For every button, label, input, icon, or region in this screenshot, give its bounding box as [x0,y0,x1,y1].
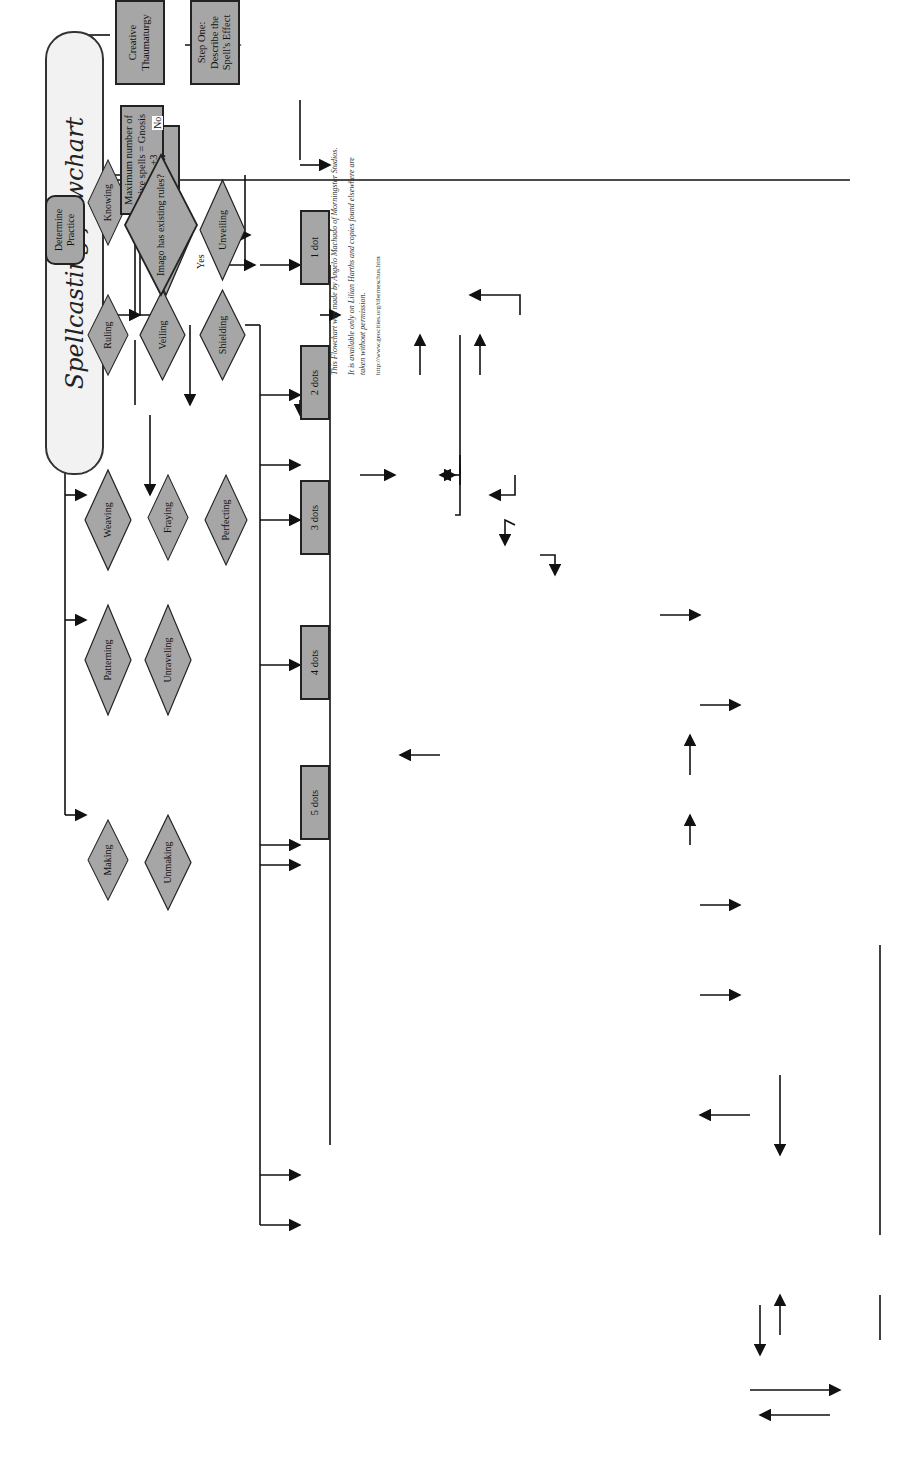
dots-3-node: 3 dots [300,480,330,555]
practice-weaving: Weaving [85,470,131,570]
determine-practice-node: Determine Practice [45,195,85,265]
practice-patterning: Patterning [85,605,131,715]
credit-note: This Flowchart was made by Angelo Machad… [330,145,384,375]
practice-fraying: Fraying [148,475,188,560]
yes-label: Yes [195,253,206,270]
imago-rules-decision: Imago has existing rules? [125,155,197,295]
practice-unveiling: Unveiling [200,180,245,280]
practice-ruling: Ruling [88,295,128,375]
practice-perfecting: Perfecting [205,475,247,565]
practice-making: Making [88,820,128,900]
credit-url: http://www.geocities.org/tiberneschus.ht… [374,145,383,375]
dots-2-node: 2 dots [300,345,330,420]
practice-veiling: Veiling [140,290,185,380]
dots-1-node: 1 dot [300,210,330,285]
credit-line-1: This Flowchart was made by Angelo Machad… [330,145,341,375]
credit-line-2: It is available only on Lilian Harths an… [347,145,369,375]
flowchart-canvas: Spellcasting flowchart This Flowchart wa… [0,0,921,1475]
dots-5-node: 5 dots [300,765,330,840]
no-label: No [152,116,163,130]
practice-shielding: Shielding [200,290,245,380]
describe-effect-node: Step One: Describe the Spell's Effect [190,0,240,85]
creative-thaumaturgy-node: Creative Thaumaturgy [115,0,165,85]
dots-4-node: 4 dots [300,625,330,700]
practice-unraveling: Unraveling [145,605,191,715]
practice-unmaking: Unmaking [145,815,191,910]
